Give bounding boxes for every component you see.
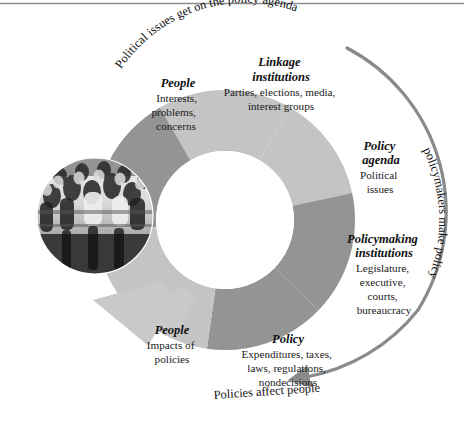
svg-text:Policymaking instituti: Policymaking institutions [347,232,421,260]
policymaking-system-diagram: Political issues get on the policy agend… [0,0,464,428]
svg-text:Linkage institutions: Linkage institutions [252,55,310,84]
svg-text:Policy agenda: Policy agenda [362,139,400,167]
arc-label-right: policymakers make policy [420,145,450,281]
svg-text:Interests, problems,: Interests, problems, concerns [151,92,199,132]
label-policy-agenda: Policy agenda Political issues [360,139,400,195]
svg-text:People: People [161,76,196,90]
ring-inner-hole [156,151,294,289]
svg-text:Policy: Policy [272,332,304,346]
label-policymaking-institutions: Policymaking institutions Legislature, e… [347,232,421,316]
svg-text:People: People [155,323,190,337]
svg-text:Impacts of policies: Impacts of policies [147,339,197,365]
crowd-photo [37,158,153,274]
svg-text:Expenditures, taxes, l: Expenditures, taxes, laws, regulations, … [241,348,334,388]
svg-text:Political issues: Political issues [360,169,400,195]
figure-canvas: Political issues get on the policy agend… [0,0,464,428]
svg-text:Legislature, executive: Legislature, executive, courts, bureaucr… [356,262,412,316]
